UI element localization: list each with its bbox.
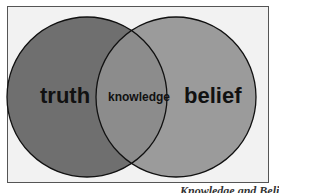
knowledge-label: knowledge [108, 90, 170, 104]
truth-label: truth [40, 83, 90, 109]
caption: Knowledge and Belief [180, 184, 279, 193]
belief-label: belief [184, 83, 241, 109]
